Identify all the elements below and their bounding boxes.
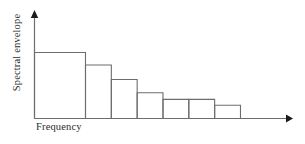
x-axis-label: Frequency <box>36 121 82 132</box>
bar-2 <box>86 65 112 118</box>
axes-group <box>31 10 293 123</box>
x-axis-arrow-icon <box>286 115 293 123</box>
bar-5 <box>163 99 189 118</box>
bar-1 <box>35 53 86 119</box>
bar-6 <box>189 99 215 118</box>
bar-7 <box>215 105 241 118</box>
bars-group <box>35 53 241 119</box>
spectral-envelope-figure: Spectral envelope Frequency <box>0 0 305 144</box>
y-axis-label: Spectral envelope <box>11 7 22 99</box>
bar-4 <box>137 93 163 119</box>
bar-3 <box>111 80 137 119</box>
y-axis-arrow-icon <box>31 10 38 18</box>
